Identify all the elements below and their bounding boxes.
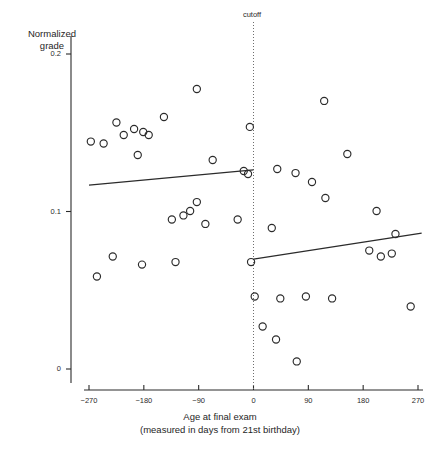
scatter-point (268, 224, 275, 231)
scatter-point (134, 151, 141, 158)
scatter-point (259, 323, 266, 330)
scatter-point (321, 97, 328, 104)
scatter-point (251, 293, 258, 300)
plot-area (66, 22, 423, 390)
scatter-point (202, 220, 209, 227)
scatter-point (130, 125, 137, 132)
y-axis-tick-label: 0.2 (37, 49, 61, 58)
scatter-point (373, 207, 380, 214)
scatter-point (100, 140, 107, 147)
scatter-point (234, 216, 241, 223)
y-axis-tick-label: 0 (37, 364, 61, 373)
y-axis-label-line1: Normalized (28, 28, 76, 39)
scatter-point (187, 207, 194, 214)
scatter-point (145, 131, 152, 138)
y-axis-tick-label: 0.1 (37, 207, 61, 216)
scatter-point (277, 295, 284, 302)
scatter-point (193, 85, 200, 92)
scatter-point (209, 156, 216, 163)
scatter-chart (0, 0, 440, 460)
scatter-point (328, 295, 335, 302)
x-axis-tick-label: −180 (124, 396, 164, 405)
scatter-point (274, 165, 281, 172)
scatter-point (172, 258, 179, 265)
scatter-point (138, 261, 145, 268)
scatter-point (407, 303, 414, 310)
scatter-point (366, 247, 373, 254)
scatter-point (109, 253, 116, 260)
scatter-point (160, 113, 167, 120)
scatter-point (293, 358, 300, 365)
scatter-point (120, 131, 127, 138)
scatter-point (168, 216, 175, 223)
scatter-point (388, 250, 395, 257)
x-axis-sublabel: (measured in days from 21st birthday) (0, 424, 440, 436)
scatter-point (322, 194, 329, 201)
scatter-point (344, 150, 351, 157)
x-axis-tick-label: 90 (288, 396, 328, 405)
scatter-point (113, 119, 120, 126)
scatter-point (93, 273, 100, 280)
scatter-point (292, 169, 299, 176)
scatter-point (87, 138, 94, 145)
scatter-point (180, 212, 187, 219)
scatter-point (308, 178, 315, 185)
left-regression-line (89, 170, 254, 185)
x-axis-tick-label: −90 (179, 396, 219, 405)
cutoff-annotation-label: cutoff (222, 10, 282, 19)
scatter-point (140, 128, 147, 135)
x-axis-tick-label: −270 (69, 396, 109, 405)
scatter-point (193, 198, 200, 205)
right-regression-line (254, 233, 422, 259)
x-axis-tick-label: 180 (343, 396, 383, 405)
scatter-point (302, 293, 309, 300)
scatter-point (377, 253, 384, 260)
x-axis-tick-label: 270 (398, 396, 438, 405)
x-axis-tick-label: 0 (234, 396, 274, 405)
x-axis-label: Age at final exam (0, 411, 440, 423)
scatter-point (246, 123, 253, 130)
scatter-point (272, 336, 279, 343)
